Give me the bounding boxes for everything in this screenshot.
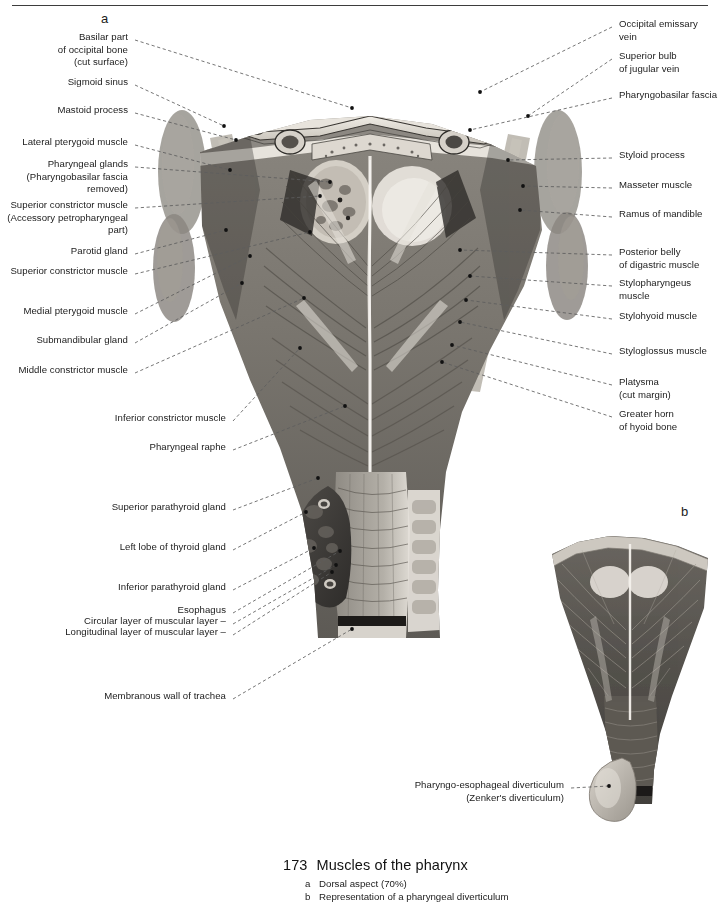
label-pharyngo-esophageal-diverticulum: Pharyngo-esophageal diverticulum (Zenker… [404,779,564,804]
label-submandibular-gland: Submandibular gland [6,334,128,347]
caption-item-key: b [305,890,319,903]
caption-item: aDorsal aspect (70%) [305,877,703,890]
label-stylohyoid-muscle: Stylohyoid muscle [619,310,718,323]
label-occipital-emissary-vein: Occipital emissary vein [619,18,718,43]
label-ramus-of-mandible: Ramus of mandible [619,208,718,221]
caption-item: bRepresentation of a pharyngeal divertic… [305,890,703,903]
label-posterior-belly: Posterior belly of digastric muscle [619,246,718,271]
label-masseter-muscle: Masseter muscle [619,179,718,192]
label-sigmoid-sinus: Sigmoid sinus [6,76,128,89]
label-inferior-parathyroid-gland: Inferior parathyroid gland [90,581,226,594]
label-superior-constrictor-muscle: Superior constrictor muscle [6,265,128,278]
label-superior-constrictor-muscle: Superior constrictor muscle (Accessory p… [0,199,128,237]
label-platysma: Platysma (cut margin) [619,376,718,401]
figure-a-dorsal-pharynx [140,60,600,650]
header-rule [12,5,708,6]
label-pharyngeal-raphe: Pharyngeal raphe [90,441,226,454]
label-superior-bulb: Superior bulb of jugular vein [619,50,718,75]
label-medial-pterygoid-muscle: Medial pterygoid muscle [6,305,128,318]
label-superior-parathyroid-gland: Superior parathyroid gland [90,501,226,514]
label-pharyngobasilar-fascia: Pharyngobasilar fascia [619,89,718,102]
label-middle-constrictor-muscle: Middle constrictor muscle [6,364,128,377]
figure-caption: 173Muscles of the pharynx aDorsal aspect… [283,856,703,904]
caption-title-row: 173Muscles of the pharynx [283,856,703,875]
caption-item-text: Dorsal aspect (70%) [319,878,407,889]
panel-letter-a: a [101,11,108,26]
caption-title: Muscles of the pharynx [317,857,468,873]
label-parotid-gland: Parotid gland [6,245,128,258]
caption-item-text: Representation of a pharyngeal diverticu… [319,891,509,902]
label-styloglossus-muscle: Styloglossus muscle [619,345,718,358]
label-styloid-process: Styloid process [619,149,718,162]
label-left-lobe-of-thyroid-gland: Left lobe of thyroid gland [90,541,226,554]
panel-letter-b: b [681,504,688,519]
caption-number: 173 [283,857,308,873]
label-basilar-part: Basilar part of occipital bone (cut surf… [6,31,128,69]
label-longitudinal-layer-of-muscular-layer: Longitudinal layer of muscular layer – [46,626,226,639]
caption-item-list: aDorsal aspect (70%)bRepresentation of a… [283,877,703,904]
label-stylopharyngeus-muscle: Stylopharyngeus muscle [619,277,718,302]
caption-item-key: a [305,877,319,890]
label-membranous-wall-of-trachea: Membranous wall of trachea [90,690,226,703]
label-mastoid-process: Mastoid process [6,104,128,117]
label-lateral-pterygoid-muscle: Lateral pterygoid muscle [6,136,128,149]
label-greater-horn: Greater horn of hyoid bone [619,408,718,433]
label-pharyngeal-glands: Pharyngeal glands (Pharyngobasilar fasci… [2,158,128,196]
figure-page: a b [0,0,718,906]
label-inferior-constrictor-muscle: Inferior constrictor muscle [90,412,226,425]
figure-b-pharyngeal-diverticulum [548,520,716,830]
